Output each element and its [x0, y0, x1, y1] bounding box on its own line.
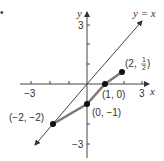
point-2-half [119, 69, 125, 75]
x-tick-label-neg3: −3 [24, 88, 36, 99]
line-y-equals-x [87, 21, 142, 84]
svg-text:1: 1 [142, 56, 146, 63]
svg-text:(2,: (2, [125, 58, 137, 69]
problem-marker: • [0, 7, 4, 18]
point-label-1-0: (1, 0) [102, 89, 125, 100]
svg-text:2: 2 [142, 64, 146, 71]
graph: • y x −3 3 3 −3 y = x (−2, −2) (0, −1) [0, 0, 164, 161]
point-1-0 [102, 81, 108, 87]
y-tick-label-neg3: −3 [72, 139, 84, 150]
point-0-neg1 [84, 101, 90, 107]
point-label-neg2-neg2: (−2, −2) [9, 112, 44, 123]
point-neg2-neg2 [50, 121, 56, 127]
point-label-0-neg1: (0, −1) [92, 107, 121, 118]
x-axis-label: x [149, 85, 155, 97]
y-axis-label: y [76, 7, 82, 19]
y-tick-label-3: 3 [78, 20, 84, 31]
x-tick-label-3: 3 [139, 88, 145, 99]
svg-text:): ) [147, 58, 150, 69]
point-label-2-half: (2, 1 2 ) [125, 56, 150, 71]
line-label: y = x [132, 7, 156, 19]
